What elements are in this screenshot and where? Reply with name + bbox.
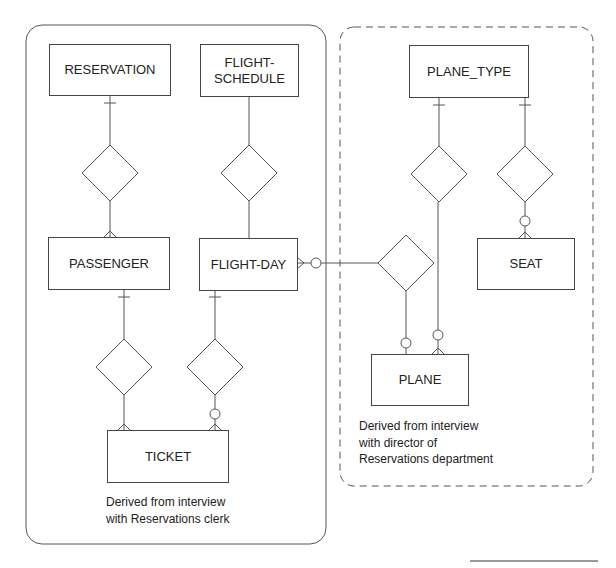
entity-plane: PLANE bbox=[371, 354, 469, 406]
entity-label: PLANE bbox=[399, 372, 442, 388]
note-line: Reservations department bbox=[359, 451, 493, 468]
note-line: Derived from interview bbox=[359, 418, 493, 435]
relationship-diamond bbox=[82, 145, 138, 201]
entity-ticket: TICKET bbox=[107, 430, 229, 483]
relationship-diamond bbox=[187, 339, 243, 395]
entity-label-line1: FLIGHT- bbox=[225, 55, 275, 71]
right-group-note: Derived from interview with director of … bbox=[359, 418, 493, 468]
relationship-diamond bbox=[96, 339, 152, 395]
note-line: Derived from interview bbox=[106, 494, 229, 511]
entity-label: RESERVATION bbox=[64, 62, 155, 78]
entity-label: FLIGHT-DAY bbox=[211, 257, 287, 273]
entity-flight-day: FLIGHT-DAY bbox=[199, 238, 298, 291]
relationship-diamond bbox=[221, 145, 277, 201]
entity-label: TICKET bbox=[145, 449, 191, 465]
entity-reservation: RESERVATION bbox=[49, 44, 171, 96]
entity-seat: SEAT bbox=[477, 238, 575, 290]
relationship-diamond bbox=[411, 146, 467, 202]
entity-label: PASSENGER bbox=[69, 256, 149, 272]
note-line: with director of bbox=[359, 435, 493, 452]
note-line: with Reservations clerk bbox=[106, 511, 229, 528]
relationship-diamond bbox=[497, 146, 553, 202]
entity-label: PLANE_TYPE bbox=[427, 64, 511, 80]
entity-label-line2: SCHEDULE bbox=[214, 71, 285, 87]
left-group-note: Derived from interview with Reservations… bbox=[106, 494, 229, 527]
entity-label: SEAT bbox=[510, 256, 543, 272]
relationship-diamond bbox=[378, 235, 434, 291]
entity-plane-type: PLANE_TYPE bbox=[409, 45, 529, 98]
entity-flight-schedule: FLIGHT- SCHEDULE bbox=[200, 44, 299, 97]
entity-passenger: PASSENGER bbox=[48, 237, 170, 290]
